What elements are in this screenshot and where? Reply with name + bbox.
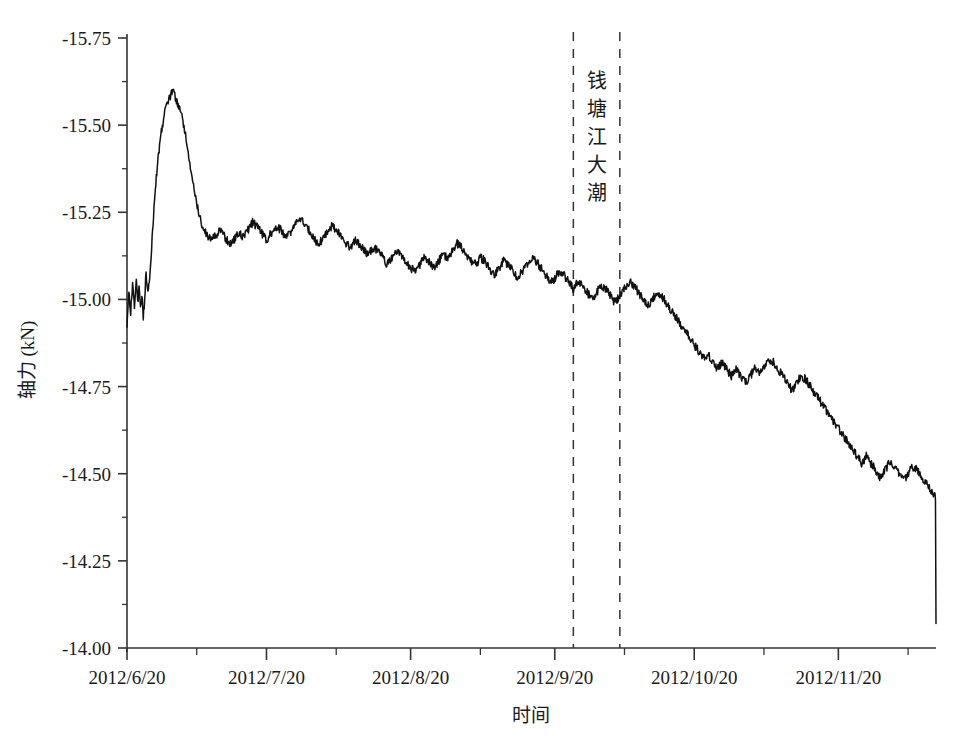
y-axis-title: 轴力 (kN) [17, 321, 39, 400]
x-tick-label: 2012/11/20 [795, 667, 881, 688]
x-tick-label: 2012/6/20 [88, 667, 165, 688]
annotation-char: 江 [587, 125, 607, 149]
x-tick-label: 2012/10/20 [651, 667, 738, 688]
y-tick-label: -14.25 [62, 551, 111, 572]
annotation-char: 钱 [587, 69, 607, 93]
annotation-char: 潮 [587, 181, 607, 205]
x-tick-label: 2012/8/20 [372, 667, 449, 688]
axial-force-time-series-chart: -15.75-15.50-15.25-15.00-14.75-14.50-14.… [0, 0, 964, 749]
x-axis-title: 时间 [512, 704, 550, 726]
annotation-label-qiantang-tide: 钱塘江大潮 [587, 69, 607, 205]
y-tick-label: -15.75 [62, 28, 111, 49]
annotation-char: 塘 [587, 97, 607, 121]
y-tick-label: -15.00 [62, 289, 111, 310]
y-tick-label: -14.50 [62, 464, 111, 485]
y-tick-label: -14.00 [62, 638, 111, 659]
y-tick-label: -15.50 [62, 115, 111, 136]
figure-background [0, 0, 964, 749]
y-tick-label: -14.75 [62, 377, 111, 398]
annotation-char: 大 [587, 153, 607, 177]
x-tick-label: 2012/7/20 [228, 667, 305, 688]
chart-figure: -15.75-15.50-15.25-15.00-14.75-14.50-14.… [0, 0, 964, 749]
y-tick-label: -15.25 [62, 202, 111, 223]
x-tick-label: 2012/9/20 [516, 667, 593, 688]
